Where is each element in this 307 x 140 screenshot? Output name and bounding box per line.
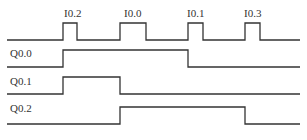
output-trace-q0-1: Q0.1: [7, 75, 300, 94]
output-label-q0-0: Q0.0: [10, 47, 32, 59]
pulse-label-i0-2: I0.2: [64, 7, 81, 19]
pulse-label-i0-0: I0.0: [124, 7, 142, 19]
q0-0-waveform: [7, 50, 300, 67]
output-label-q0-2: Q0.2: [10, 102, 32, 114]
input-waveform: [7, 23, 300, 40]
output-trace-q0-0: Q0.0: [7, 47, 300, 67]
input-trace: I0.2 I0.0 I0.1 I0.3: [7, 7, 300, 40]
timing-diagram: I0.2 I0.0 I0.1 I0.3 Q0.0 Q0.1 Q0.2: [0, 0, 307, 140]
q0-2-waveform: [7, 107, 300, 124]
pulse-label-i0-3: I0.3: [244, 7, 262, 19]
pulse-label-i0-1: I0.1: [187, 7, 204, 19]
output-trace-q0-2: Q0.2: [7, 102, 300, 124]
q0-1-waveform: [7, 77, 300, 94]
output-label-q0-1: Q0.1: [10, 75, 32, 87]
